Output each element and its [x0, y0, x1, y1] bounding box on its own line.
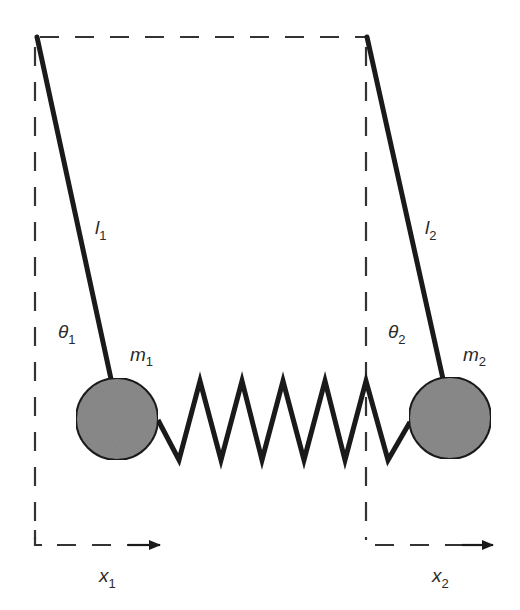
label-m1: m1	[130, 344, 153, 369]
spring	[158, 381, 410, 460]
label-theta1: θ1	[58, 321, 76, 347]
label-x1: x1	[98, 565, 116, 591]
label-l1: l1	[95, 217, 106, 243]
reference-frame	[35, 37, 366, 540]
label-l2: l2	[425, 217, 436, 243]
mass-2	[409, 377, 491, 459]
coupled-pendulum-diagram: l1 l2 θ1 θ2 m1 m2 x1 x2	[0, 0, 520, 610]
rod-1	[37, 37, 111, 379]
rod-2	[367, 37, 443, 379]
label-theta2: θ2	[388, 321, 406, 347]
label-m2: m2	[463, 344, 486, 369]
mass-1	[76, 378, 158, 460]
label-x2: x2	[431, 565, 449, 591]
left-corner	[35, 530, 42, 545]
